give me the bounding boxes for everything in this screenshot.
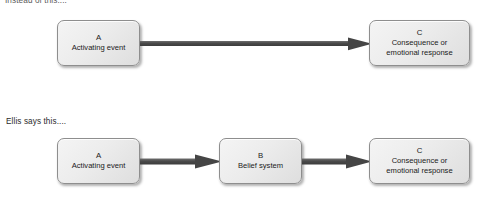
caption-instead-of-this: Instead of this....: [5, 0, 67, 6]
node-label-line-1: Belief system: [238, 161, 283, 171]
node-label-line-1: Consequence or: [392, 156, 448, 166]
arrow-b-to-c-bottom: [302, 154, 372, 170]
node-c-consequence-bottom: C Consequence or emotional response: [369, 138, 470, 184]
node-letter: B: [258, 151, 263, 161]
node-label-line-2: emotional response: [386, 166, 452, 176]
node-letter: C: [417, 28, 423, 38]
node-c-consequence-top: C Consequence or emotional response: [369, 20, 470, 66]
node-letter: C: [417, 146, 423, 156]
node-b-belief-system: B Belief system: [219, 138, 302, 184]
node-label-line-1: Activating event: [72, 43, 126, 53]
arrow-a-to-b-bottom: [140, 154, 222, 170]
node-label-line-2: emotional response: [386, 48, 452, 58]
arrow-a-to-c-top: [140, 36, 372, 52]
node-letter: A: [96, 33, 101, 43]
abc-model-diagram: Instead of this.... A Activating event C…: [0, 0, 478, 214]
node-a-activating-event-bottom: A Activating event: [57, 138, 140, 184]
node-letter: A: [96, 151, 101, 161]
node-label-line-1: Consequence or: [392, 38, 448, 48]
node-a-activating-event-top: A Activating event: [57, 20, 140, 66]
node-label-line-1: Activating event: [72, 161, 126, 171]
caption-ellis-says-this: Ellis says this....: [6, 117, 66, 127]
